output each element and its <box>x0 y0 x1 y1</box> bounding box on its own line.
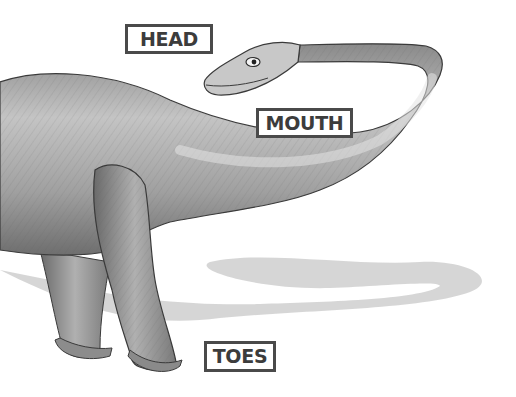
dinosaur-diagram: HEAD MOUTH TOES <box>0 0 516 397</box>
head <box>204 42 300 95</box>
dinosaur-illustration <box>0 0 516 397</box>
head-label: HEAD <box>125 24 213 54</box>
hind-leg <box>40 250 112 359</box>
mouth-label: MOUTH <box>256 108 353 138</box>
toes-label: TOES <box>204 341 276 372</box>
